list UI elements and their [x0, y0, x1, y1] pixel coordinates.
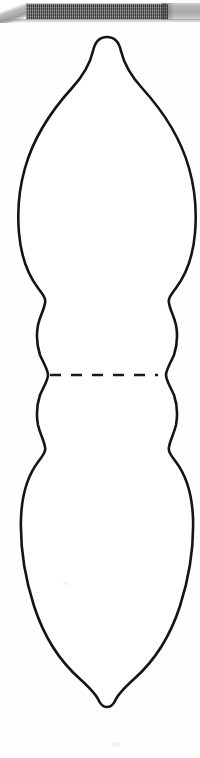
- two-bulb-vessel-figure: [0, 0, 200, 758]
- scan-speck: [63, 581, 68, 585]
- scan-speck: [112, 742, 121, 747]
- figure-page: [0, 0, 200, 758]
- vessel-outline-path: [18, 37, 196, 707]
